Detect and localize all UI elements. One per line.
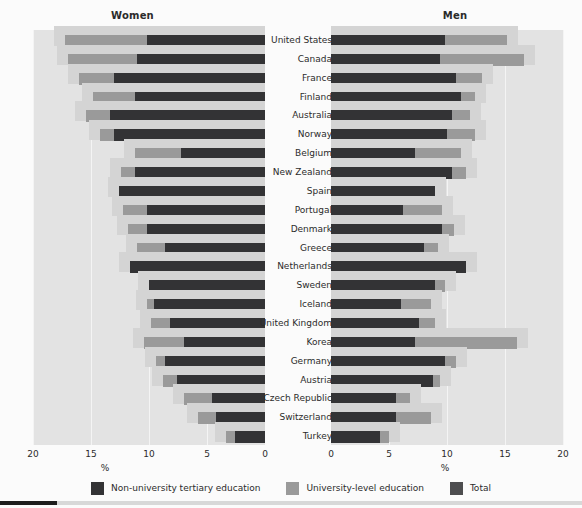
country-label: Belgium	[258, 148, 332, 159]
segment-non-university	[331, 431, 380, 443]
country-label: Germany	[258, 356, 332, 367]
country-label: Spain	[258, 186, 332, 197]
axis-tick: 0	[328, 449, 334, 459]
footer-rule	[0, 501, 582, 505]
country-label: United Kingdom	[258, 318, 332, 329]
axis-tick: 20	[27, 449, 38, 459]
footer-rule-accent	[0, 501, 57, 505]
country-label-column: United StatesCanadaFranceFinlandAustrali…	[258, 30, 332, 445]
country-label: Austria	[258, 375, 332, 386]
legend-item[interactable]: Non-university tertiary education	[91, 482, 260, 495]
panel-title-women: Women	[0, 10, 265, 21]
axis-tick: 20	[557, 449, 568, 459]
legend-swatch-total	[450, 482, 463, 495]
country-label: Czech Republic	[258, 393, 332, 404]
segment-university	[380, 431, 389, 443]
country-label: Switzerland	[258, 412, 332, 423]
axis-tick: 10	[143, 449, 154, 459]
axis-unit-men: %	[330, 463, 560, 473]
country-label: Finland	[258, 92, 332, 103]
axis-tick: 5	[386, 449, 392, 459]
legend-label: Non-university tertiary education	[111, 483, 260, 493]
country-label: Netherlands	[258, 261, 332, 272]
legend-item[interactable]: Total	[450, 482, 491, 495]
axis-tick: 15	[85, 449, 96, 459]
segment-university	[396, 412, 431, 424]
legend-swatch-nonuni	[91, 482, 104, 495]
gridline	[505, 30, 506, 445]
country-label: Portugal	[258, 205, 332, 216]
legend-label: Total	[470, 483, 491, 493]
country-label: Norway	[258, 129, 332, 140]
segment-university	[433, 375, 440, 387]
country-label: New Zealand	[258, 167, 332, 178]
legend-swatch-uni	[286, 482, 299, 495]
axis-tick: 15	[499, 449, 510, 459]
segment-university	[452, 167, 466, 179]
axis-tick: 5	[204, 449, 210, 459]
segment-university	[198, 412, 217, 424]
gridline	[33, 30, 34, 445]
country-label: Canada	[258, 54, 332, 65]
chart-root: Women Men United StatesCanadaFranceFinla…	[0, 0, 582, 508]
country-label: Greece	[258, 243, 332, 254]
country-label: Sweden	[258, 280, 332, 291]
segment-university	[100, 129, 114, 141]
panel-title-men: Men	[330, 10, 580, 21]
x-axis-women: 20151050	[0, 449, 272, 463]
chart-legend: Non-university tertiary educationUnivers…	[0, 479, 582, 497]
legend-label: University-level education	[306, 483, 423, 493]
country-label: France	[258, 73, 332, 84]
legend-item[interactable]: University-level education	[286, 482, 423, 495]
axis-tick: 10	[441, 449, 452, 459]
country-label: Australia	[258, 110, 332, 121]
gridline	[563, 30, 564, 445]
axis-tick: 0	[262, 449, 268, 459]
country-label: Denmark	[258, 224, 332, 235]
country-label: Turkey	[258, 431, 332, 442]
segment-university	[226, 431, 235, 443]
axis-unit-women: %	[0, 463, 210, 473]
country-label: Korea	[258, 337, 332, 348]
country-label: United States	[258, 35, 332, 46]
country-label: Iceland	[258, 299, 332, 310]
x-axis-men: 05101520	[325, 449, 582, 463]
